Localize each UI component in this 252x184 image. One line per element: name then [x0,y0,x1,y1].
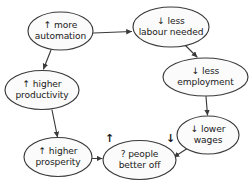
node-less-employment[interactable] [163,58,248,96]
edge-automation-to-labour [94,32,132,34]
node-less-labour-needed[interactable] [133,7,209,47]
diagram-canvas [0,0,252,184]
edge-automation-to-productivity [44,50,52,69]
node-higher-productivity[interactable] [5,71,79,110]
edge-labour-to-employment [186,46,197,57]
node-higher-prosperity[interactable] [24,138,92,177]
nodes-layer [5,7,248,180]
node-lower-wages[interactable] [177,116,239,154]
edge-employment-to-wages [206,97,208,116]
edge-wages-to-better-off [174,148,188,157]
marker-up-marker-left-of-better-off: ↑ [105,133,114,144]
node-people-better-off[interactable] [103,141,176,180]
causal-loop-diagram: ↑ moreautomation↓ lesslabour needed↓ les… [0,0,252,184]
node-more-automation[interactable] [28,12,93,50]
marker-down-marker-right-of-better-off: ↓ [166,133,175,144]
edge-productivity-to-prosperity [52,110,58,137]
